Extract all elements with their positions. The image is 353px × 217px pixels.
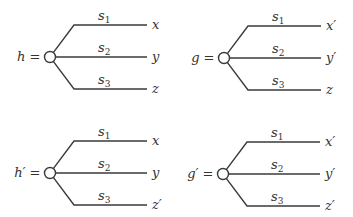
- signal-label: s1: [98, 8, 110, 25]
- signal-label: s2: [271, 157, 283, 174]
- signal-label: s1: [271, 125, 283, 142]
- chance-node-icon: [218, 169, 229, 180]
- signal-label: s3: [271, 189, 284, 206]
- chance-node-icon: [45, 168, 56, 179]
- outcome-label: y: [151, 49, 160, 64]
- signal-label: s3: [272, 73, 285, 90]
- outcome-label: y: [151, 165, 160, 180]
- tree-label: g′ =: [187, 166, 213, 181]
- tree-label: h′ =: [14, 165, 40, 180]
- outcome-label: x′: [326, 18, 336, 33]
- tree-g: g =s1x′s2y′s3z: [191, 9, 336, 97]
- outcome-label: y′: [324, 166, 335, 181]
- signal-label: s1: [98, 124, 110, 141]
- signal-label: s3: [98, 188, 111, 205]
- chance-node-icon: [45, 52, 56, 63]
- tree-g-prime: g′ =s1x′s2y′s3z′: [187, 125, 335, 213]
- tree-h: h =s1xs2ys3z: [17, 8, 160, 96]
- tree-label: g =: [191, 50, 214, 65]
- outcome-label: z: [325, 82, 333, 97]
- signal-label: s2: [98, 40, 110, 57]
- outcome-label: y′: [325, 50, 336, 65]
- signal-label: s1: [272, 9, 284, 26]
- chance-node-icon: [219, 53, 230, 64]
- signal-label: s2: [272, 41, 284, 58]
- decision-trees-diagram: h =s1xs2ys3zg =s1x′s2y′s3zh′ =s1xs2ys3z′…: [0, 0, 353, 217]
- outcome-label: z′: [324, 198, 335, 213]
- tree-label: h =: [17, 49, 40, 64]
- outcome-label: z′: [151, 197, 162, 212]
- signal-label: s3: [98, 72, 111, 89]
- tree-h-prime: h′ =s1xs2ys3z′: [14, 124, 162, 212]
- outcome-label: x′: [325, 134, 335, 149]
- outcome-label: x: [152, 133, 160, 148]
- signal-label: s2: [98, 156, 110, 173]
- outcome-label: x: [152, 17, 160, 32]
- outcome-label: z: [151, 81, 159, 96]
